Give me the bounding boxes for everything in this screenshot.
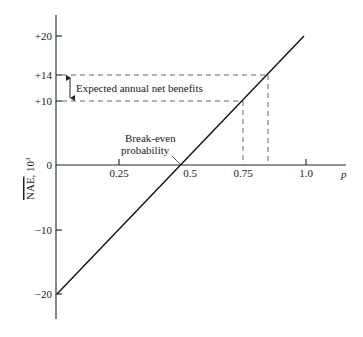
- y-tick-label: +20: [35, 30, 53, 42]
- annotation-net-benefits: Expected annual net benefits: [76, 82, 203, 94]
- y-axis-label: NAE, 103: [24, 157, 36, 200]
- x-tick-label: 1.0: [299, 167, 313, 179]
- y-tick-label: −20: [35, 288, 53, 300]
- break-even-label-line2: probability: [121, 144, 170, 156]
- y-axis-label-suffix: , 10: [24, 160, 36, 177]
- x-tick-label: 0.75: [233, 167, 253, 179]
- y-tick-label: 0: [47, 159, 53, 171]
- svg-text:NAE, 103: NAE, 103: [24, 157, 36, 200]
- y-tick-labels: +20 +14 +10 0 −10 −20: [35, 30, 53, 300]
- break-even-label-line1: Break-even: [125, 132, 176, 144]
- y-tick-label: +14: [35, 69, 53, 81]
- x-tick-labels: 0.25 0.5 0.75 1.0: [109, 167, 313, 179]
- y-axis-label-overline: NAE: [24, 177, 36, 200]
- y-tick-label: +10: [35, 95, 53, 107]
- x-tick-label: 0.5: [183, 167, 197, 179]
- y-axis-label-exponent: 3: [24, 157, 32, 161]
- y-tick-label: −10: [35, 224, 53, 236]
- x-tick-label: 0.25: [109, 167, 129, 179]
- chart: +20 +14 +10 0 −10 −20 0.25 0.5 0.75 1.0 …: [0, 0, 363, 337]
- x-axis-label: p: [340, 168, 347, 180]
- break-even-annotation: Break-even probability: [121, 132, 180, 164]
- x-ticks: [119, 159, 306, 165]
